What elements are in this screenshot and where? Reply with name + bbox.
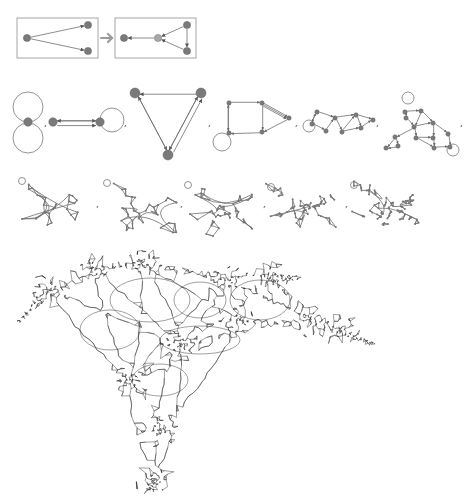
- graph-node: [200, 196, 202, 198]
- graph-node: [121, 207, 123, 209]
- graph-node: [294, 212, 296, 214]
- graph-node: [66, 208, 68, 210]
- graph-node: [167, 197, 169, 199]
- sequence-separators: ,,,,,,,,,,: [44, 118, 463, 209]
- graph-node: [323, 203, 325, 205]
- graph-node: [36, 194, 38, 196]
- graph-node: [208, 199, 210, 201]
- graph-edge: [121, 221, 126, 226]
- graph-node: [210, 224, 212, 226]
- graph-edge: [337, 115, 354, 117]
- evolution-row-early-steps: [13, 88, 459, 160]
- graph-node: [368, 193, 370, 195]
- graph-node: [133, 208, 135, 210]
- graph-node: [45, 197, 47, 199]
- graph-node: [307, 204, 309, 206]
- graph-edge: [195, 195, 217, 214]
- graph-node: [412, 199, 414, 201]
- graph-node: [70, 214, 72, 216]
- graph-node: [209, 211, 211, 213]
- graph-edge: [158, 201, 166, 205]
- graph-edge: [329, 218, 336, 227]
- graph-edge: [388, 139, 394, 147]
- graph-edge: [327, 119, 333, 128]
- graph-node: [68, 200, 70, 202]
- graph-node: [74, 202, 76, 204]
- graph-node: [281, 192, 283, 194]
- graph-edge: [408, 119, 413, 125]
- graph-node: [251, 194, 253, 196]
- graph-node: [251, 196, 253, 198]
- graph-node: [223, 208, 225, 210]
- evolution-row-middle-steps: [19, 178, 420, 238]
- graph-node: [309, 205, 311, 207]
- graph-node: [229, 213, 231, 215]
- graph-node: [292, 207, 294, 209]
- graph-node: [324, 129, 328, 133]
- graph-node: [383, 222, 385, 224]
- sequence-separator: ,: [208, 118, 211, 128]
- graph-node: [353, 185, 355, 187]
- graph-node: [43, 211, 45, 213]
- graph-node: [414, 136, 418, 140]
- graph-node: [154, 34, 161, 41]
- graph-node: [35, 218, 37, 220]
- graph-node: [378, 207, 380, 209]
- graph-node: [273, 191, 275, 193]
- graph-edge: [169, 97, 197, 150]
- graph-node: [292, 198, 294, 200]
- evolution-step-3: [130, 88, 206, 160]
- graph-node: [308, 208, 310, 210]
- graph-node: [400, 205, 402, 207]
- graph-node: [320, 215, 322, 217]
- graph-node: [213, 221, 215, 223]
- graph-edge: [357, 117, 360, 126]
- graph-node: [414, 223, 416, 225]
- graph-node: [227, 131, 231, 135]
- graph-node: [293, 205, 295, 207]
- rule-left-hand-side: [17, 18, 98, 58]
- graph-node: [217, 214, 219, 216]
- graph-edge: [396, 139, 398, 144]
- graph-edge: [423, 112, 432, 121]
- graph-node: [388, 207, 390, 209]
- graph-node: [290, 207, 292, 209]
- graph-node: [368, 190, 370, 192]
- graph-node: [71, 195, 73, 197]
- graph-node: [329, 223, 331, 225]
- graph-node: [153, 206, 155, 208]
- graph-node: [183, 47, 190, 54]
- evolution-step-7: [19, 178, 79, 227]
- graph-node: [120, 34, 127, 41]
- graph-node: [52, 208, 54, 210]
- graph-edge: [358, 115, 371, 119]
- graph-node: [389, 213, 391, 215]
- sequence-separator: ,: [180, 199, 183, 209]
- graph-node: [323, 198, 325, 200]
- graph-node: [374, 193, 376, 195]
- graph-edge: [206, 225, 211, 234]
- graph-node: [54, 207, 56, 209]
- graph-node: [390, 202, 392, 204]
- graph-node: [260, 130, 264, 134]
- graph-node: [84, 21, 91, 28]
- graph-node: [305, 209, 307, 211]
- graph-node: [392, 202, 394, 204]
- graph-node: [404, 208, 406, 210]
- graph-node: [247, 199, 249, 201]
- graph-node: [229, 217, 231, 219]
- graph-node: [133, 210, 135, 212]
- graph-node: [431, 136, 435, 140]
- graph-node: [212, 213, 214, 215]
- graph-node: [51, 222, 53, 224]
- graph-edge: [418, 138, 432, 146]
- graph-node: [218, 227, 220, 229]
- evolution-step-2: [49, 108, 124, 132]
- graph-edge: [263, 106, 286, 119]
- graph-edge: [352, 212, 363, 217]
- graph-node: [154, 212, 156, 214]
- graph-node: [23, 34, 30, 41]
- graph-node: [31, 187, 33, 189]
- graph-node: [48, 216, 50, 218]
- graph-node: [175, 201, 177, 203]
